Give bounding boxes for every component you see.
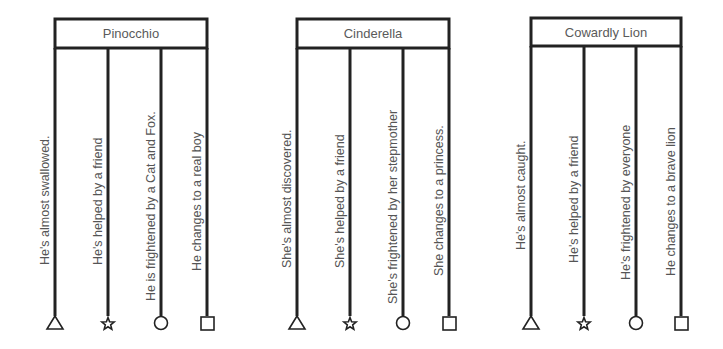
story-branch: He's almost caught. [514,46,539,329]
triangle-icon [523,316,539,329]
diagram-title: Cinderella [344,26,403,41]
branch-label: He's frightened by everyone [619,125,633,280]
circle-icon [630,317,643,330]
story-branch: He's helped by a friend [567,46,590,329]
circle-icon [155,317,168,330]
branch-label: She's almost discovered. [280,129,294,268]
story-branch: He's almost swallowed. [38,48,63,329]
triangle-icon [289,316,305,329]
branch-label: He's helped by a friend [567,135,581,263]
diagram-cinderella: CinderellaShe's almost discovered.She's … [280,19,456,330]
branch-label: She's helped by a friend [333,134,347,268]
square-icon [675,317,688,330]
branch-label: He is frightened by a Cat and Fox. [144,111,158,301]
branch-label: She changes to a princess. [432,125,446,276]
branch-label: She's frightened by her stepmother [386,110,400,304]
diagram-title: Cowardly Lion [565,25,647,40]
story-structure-diagrams: PinocchioHe's almost swallowed.He's help… [0,0,723,349]
branch-label: He changes to a brave lion [664,127,678,276]
triangle-icon [47,316,63,329]
story-branch: She's almost discovered. [280,48,305,329]
story-branch: She's frightened by her stepmother [386,48,410,330]
story-branch: He changes to a real boy [190,48,214,330]
diagram-title: Pinocchio [103,26,159,41]
circle-icon [397,317,410,330]
square-icon [443,317,456,330]
star-icon [344,318,356,330]
story-branch: She's helped by a friend [333,48,356,329]
branch-label: He's almost swallowed. [38,135,52,265]
story-branch: He's helped by a friend [91,48,114,329]
branch-label: He changes to a real boy [190,131,204,271]
branch-label: He's helped by a friend [91,137,105,265]
square-icon [201,317,214,330]
branch-label: He's almost caught. [514,141,528,250]
star-icon [578,318,590,330]
story-branch: He changes to a brave lion [664,46,688,330]
diagram-pinocchio: PinocchioHe's almost swallowed.He's help… [38,19,214,330]
story-branch: She changes to a princess. [432,48,456,330]
story-branch: He is frightened by a Cat and Fox. [144,48,168,330]
diagram-cowardly-lion: Cowardly LionHe's almost caught.He's hel… [514,18,688,330]
story-branch: He's frightened by everyone [619,46,643,330]
star-icon [102,318,114,330]
